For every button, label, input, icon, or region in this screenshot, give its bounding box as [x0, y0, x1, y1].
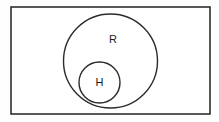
set-label-h: H: [95, 76, 103, 88]
universal-set-rectangle: [11, 7, 210, 114]
set-label-r: R: [109, 33, 117, 45]
diagram-canvas: R H: [0, 0, 219, 122]
venn-diagram: R H: [0, 0, 219, 122]
